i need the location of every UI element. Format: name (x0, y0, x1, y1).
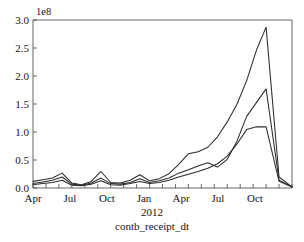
y-tick-label-5: 2.5 (15, 42, 29, 54)
x-tick-label-5: Jul (212, 192, 225, 204)
y-tick-label-1: 0.5 (15, 154, 29, 166)
y-tick-label-4: 2.0 (15, 70, 29, 82)
plot-area-background (33, 20, 292, 188)
x-axis-year-label: 2012 (141, 206, 163, 218)
y-tick-label-2: 1.0 (15, 126, 29, 138)
x-tick-label-3: Jan (137, 192, 152, 204)
x-axis-title: contb_receipt_dt (115, 220, 189, 232)
y-tick-label-3: 1.5 (15, 98, 29, 110)
x-tick-label-1: Jul (64, 192, 77, 204)
x-tick-label-6: Oct (247, 192, 263, 204)
x-tick-label-2: Oct (99, 192, 115, 204)
y-axis-exponent-label: 1e8 (36, 6, 51, 17)
x-tick-label-0: Apr (24, 192, 41, 204)
line-chart: 1e8 0.0 0.5 1.0 1.5 2.0 2.5 3.0 Apr Jul … (0, 0, 304, 242)
chart-figure: 1e8 0.0 0.5 1.0 1.5 2.0 2.5 3.0 Apr Jul … (0, 0, 304, 242)
x-tick-label-4: Apr (172, 192, 189, 204)
y-tick-label-6: 3.0 (15, 14, 29, 26)
